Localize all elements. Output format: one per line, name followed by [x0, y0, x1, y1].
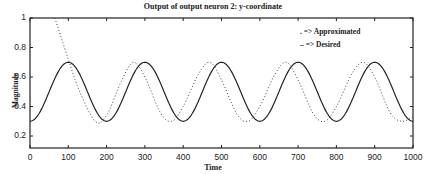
legend-item-approximated: . => Approximated — [300, 25, 360, 38]
legend: . => Approximated – => Desired — [300, 25, 360, 51]
x-tick-label: 200 — [95, 152, 119, 162]
y-tick-label: 0.4 — [4, 101, 26, 111]
legend-item-desired: – => Desired — [300, 38, 360, 51]
x-tick-label: 100 — [56, 152, 80, 162]
y-tick-label: 0.6 — [4, 71, 26, 81]
x-tick-label: 0 — [18, 152, 42, 162]
x-tick-label: 1000 — [401, 152, 425, 162]
y-tick-label: 0.8 — [4, 42, 26, 52]
y-tick-label: 1 — [4, 12, 26, 22]
x-tick-label: 700 — [286, 152, 310, 162]
x-tick-label: 900 — [363, 152, 387, 162]
x-tick-label: 500 — [210, 152, 234, 162]
series-desired — [30, 62, 413, 121]
x-tick-label: 800 — [324, 152, 348, 162]
x-tick-label: 400 — [171, 152, 195, 162]
plot-area — [0, 0, 426, 174]
x-tick-label: 300 — [133, 152, 157, 162]
x-tick-label: 600 — [248, 152, 272, 162]
y-tick-label: 0.2 — [4, 130, 26, 140]
